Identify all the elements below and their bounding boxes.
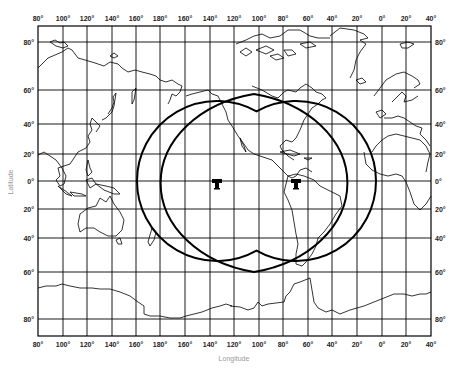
longitude-label: 120° (227, 15, 242, 22)
longitude-label: 160° (178, 15, 193, 22)
longitude-label: 80° (278, 15, 289, 22)
longitude-label: 60° (303, 341, 314, 348)
longitude-label: 20° (352, 15, 363, 22)
coast-novaya (50, 40, 68, 48)
coast-antarctica-west (38, 284, 232, 318)
latitude-label: 20° (435, 151, 446, 158)
latitude-label: 80° (435, 316, 446, 323)
longitude-labels-bottom: 80°100°120°140°160°180°160°140°120°100°8… (33, 341, 437, 348)
satellite-antenna-icon (291, 179, 301, 190)
longitude-label: 60° (303, 15, 314, 22)
longitude-label: 140° (105, 15, 120, 22)
coast-iceland (356, 78, 366, 84)
longitude-label: 120° (227, 341, 242, 348)
coast-greenland (330, 28, 368, 78)
longitude-label: 100° (56, 341, 71, 348)
longitude-label: 140° (105, 341, 120, 348)
longitude-label: 80° (33, 341, 44, 348)
longitude-label: 120° (80, 15, 95, 22)
satellite-antenna-icon (212, 179, 222, 190)
longitude-label: 40° (327, 15, 338, 22)
latitude-label: 60° (435, 269, 446, 276)
latitude-labels-left: 80°60°40°20°0°20°40°60°80° (23, 39, 34, 323)
latitude-label: 0° (27, 178, 34, 185)
coast-australia (78, 196, 124, 236)
longitude-label: 160° (129, 341, 144, 348)
longitude-label: 160° (178, 341, 193, 348)
latitude-label: 40° (435, 121, 446, 128)
coast-antarctica-east (230, 278, 431, 314)
longitude-label: 80° (278, 341, 289, 348)
coast-tasmania (116, 238, 122, 244)
latitude-label: 60° (435, 87, 446, 94)
longitude-label: 40° (327, 341, 338, 348)
coast-svalbard (400, 42, 414, 48)
longitude-label: 180° (153, 15, 168, 22)
latitude-label: 60° (23, 87, 34, 94)
latitude-label: 0° (435, 178, 442, 185)
longitude-label: 180° (153, 341, 168, 348)
longitude-labels-top: 80°100°120°140°160°180°160°140°120°100°8… (33, 15, 437, 22)
grid-lines (38, 26, 431, 336)
latitude-label: 20° (435, 206, 446, 213)
latitude-label: 40° (23, 121, 34, 128)
longitude-label: 80° (33, 15, 44, 22)
longitude-label: 140° (203, 341, 218, 348)
coast-japan (102, 93, 116, 120)
coast-north-america (186, 84, 326, 178)
coverage-footprint (137, 94, 376, 272)
latitude-label: 40° (23, 235, 34, 242)
latitude-label: 80° (23, 316, 34, 323)
x-axis-title: Longitude (219, 355, 250, 363)
longitude-label: 120° (80, 341, 95, 348)
longitude-label: 40° (426, 341, 437, 348)
coastlines (38, 28, 431, 318)
longitude-label: 40° (426, 15, 437, 22)
longitude-label: 100° (252, 341, 267, 348)
longitude-label: 140° (203, 15, 218, 22)
y-axis-title: Latitude (7, 169, 14, 194)
latitude-label: 20° (23, 151, 34, 158)
latitude-label: 40° (435, 235, 446, 242)
coast-islands-1 (110, 53, 118, 58)
longitude-label: 20° (401, 15, 412, 22)
world-map: 80°100°120°140°160°180°160°140°120°100°8… (0, 0, 460, 379)
longitude-label: 0° (379, 341, 386, 348)
longitude-label: 100° (252, 15, 267, 22)
latitude-label: 80° (435, 39, 446, 46)
latitude-label: 60° (23, 269, 34, 276)
longitude-label: 0° (379, 15, 386, 22)
coast-china (38, 118, 100, 186)
longitude-label: 100° (56, 15, 71, 22)
coast-caribbean (280, 150, 312, 160)
latitude-label: 80° (23, 39, 34, 46)
longitude-label: 20° (352, 341, 363, 348)
longitude-label: 20° (401, 341, 412, 348)
latitude-labels-right: 80°60°40°20°0°20°40°60°80° (435, 39, 446, 323)
latitude-label: 20° (23, 206, 34, 213)
longitude-label: 160° (129, 15, 144, 22)
